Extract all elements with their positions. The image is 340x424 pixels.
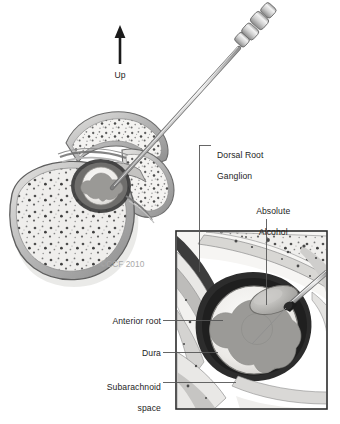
label-dorsal-root-ganglion-line1: Dorsal Root [217, 150, 263, 160]
label-absolute-alcohol-line1: Absolute [256, 206, 290, 216]
label-absolute-alcohol: Absolute Alcohol [240, 196, 302, 238]
label-up: Up [109, 70, 131, 80]
label-absolute-alcohol-line2: Alcohol [259, 227, 288, 237]
label-dorsal-root-ganglion-line2: Ganglion [217, 171, 252, 181]
copyright-notice: ©CCF 2010 [100, 259, 144, 269]
label-subarachnoid-space: Subarachnoid space [78, 372, 161, 414]
label-subarachnoid-space-line2: space [138, 403, 161, 413]
label-dura: Dura [110, 348, 161, 358]
label-anterior-root: Anterior root [88, 316, 161, 326]
label-subarachnoid-space-line1: Subarachnoid [107, 382, 161, 392]
label-dorsal-root-ganglion: Dorsal Root Ganglion [212, 140, 263, 182]
